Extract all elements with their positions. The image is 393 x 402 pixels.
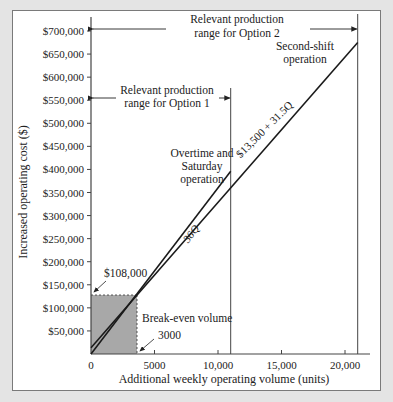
overtime-cost-line: [91, 171, 231, 354]
y-tick-label: $400,000: [43, 163, 85, 175]
y-tick-label: $150,000: [43, 279, 85, 291]
y-tick-label: $550,000: [43, 94, 85, 106]
y-tick-label: $700,000: [43, 25, 85, 37]
y-axis-label: Increased operating cost ($): [16, 125, 30, 259]
y-tick-label: $350,000: [43, 187, 85, 199]
break-even-cost-label: $108,000: [104, 267, 147, 280]
y-axis-ticks: $50,000$100,000$150,000$200,000$250,000$…: [43, 25, 91, 337]
y-tick-label: $450,000: [43, 140, 85, 152]
break-even-volume-value: 3000: [158, 329, 181, 341]
x-tick-label: 5000: [144, 359, 167, 371]
option1-range-label-2: range for Option 1: [124, 97, 210, 110]
y-tick-label: $50,000: [48, 325, 84, 337]
break-even-volume-arrow: [140, 339, 154, 351]
overtime-label-1: Overtime and: [171, 147, 234, 159]
y-tick-label: $200,000: [43, 256, 85, 268]
x-tick-label: 10,000: [203, 359, 234, 371]
y-tick-label: $600,000: [43, 71, 85, 83]
x-axis-label: Additional weekly operating volume (unit…: [119, 372, 330, 386]
second-shift-label-2: operation: [283, 53, 327, 66]
y-tick-label: $100,000: [43, 302, 85, 314]
break-even-chart: $50,000$100,000$150,000$200,000$250,000$…: [0, 0, 393, 402]
y-tick-label: $250,000: [43, 233, 85, 245]
x-tick-label: 15,000: [266, 359, 297, 371]
y-tick-label: $500,000: [43, 117, 85, 129]
option2-range-label-2: range for Option 2: [194, 27, 280, 40]
break-even-cost-arrow: [94, 281, 106, 292]
x-tick-label: 0: [88, 359, 94, 371]
option2-range-label-1: Relevant production: [190, 13, 284, 26]
y-tick-label: $300,000: [43, 210, 85, 222]
break-even-volume-label: Break-even volume: [142, 312, 232, 324]
option1-range-label-1: Relevant production: [120, 84, 214, 97]
overtime-label-3: operation: [180, 173, 224, 186]
second-shift-label-1: Second-shift: [276, 40, 335, 52]
overtime-label-2: Saturday: [182, 160, 223, 173]
x-tick-label: 20,000: [330, 359, 361, 371]
y-tick-label: $650,000: [43, 48, 85, 60]
